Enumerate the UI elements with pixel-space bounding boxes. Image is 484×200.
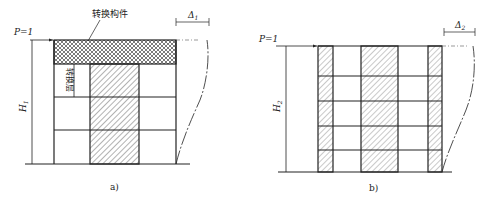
drift-label-b: Δ2 xyxy=(454,20,466,31)
deflection-curve-a xyxy=(176,40,208,164)
diagram-canvas: P=1 Δ1 转换构件 转换层 H1 a) P=1 Δ2 xyxy=(0,0,484,200)
transfer-storey-label: 转换层 xyxy=(65,68,75,92)
deflection-curve-b xyxy=(442,46,474,172)
drift-label-a: Δ1 xyxy=(187,10,198,21)
figure-a: P=1 Δ1 转换构件 转换层 H1 a) xyxy=(13,8,209,192)
transfer-member-label: 转换构件 xyxy=(92,8,128,19)
caption-a: a) xyxy=(110,182,119,192)
height-label-a: H1 xyxy=(18,100,29,113)
transfer-member xyxy=(54,40,176,64)
figure-b: P=1 Δ2 H2 b) xyxy=(258,20,475,193)
side-wall-right xyxy=(428,46,442,172)
core-wall-b xyxy=(361,46,398,172)
side-wall-left xyxy=(318,46,333,172)
core-wall-a xyxy=(90,64,139,164)
caption-b: b) xyxy=(369,183,378,193)
load-label-b: P=1 xyxy=(258,34,278,44)
height-label-b: H2 xyxy=(272,100,283,113)
load-label-a: P=1 xyxy=(13,27,33,37)
